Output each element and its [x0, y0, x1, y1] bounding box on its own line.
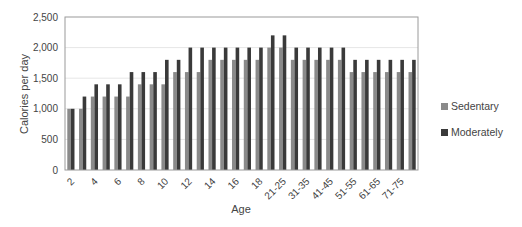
bar-sedentary [91, 97, 95, 170]
bar-sedentary [397, 72, 401, 170]
bar-moderately [330, 48, 334, 170]
bar-sedentary [185, 72, 189, 170]
bar-sedentary [256, 60, 260, 170]
bar-moderately [200, 48, 204, 170]
bar-moderately [377, 60, 381, 170]
bar-sedentary [361, 72, 365, 170]
bar-sedentary [409, 72, 413, 170]
bar-moderately [177, 60, 181, 170]
y-axis-ticks: 05001,0001,5002,0002,500 [33, 12, 58, 176]
bar-moderately [247, 48, 251, 170]
bar-moderately [94, 84, 98, 170]
y-tick-label: 1,500 [33, 73, 58, 84]
bar-sedentary [138, 84, 142, 170]
legend-swatch-moderately [441, 129, 448, 136]
x-tick-label: 51-55 [333, 175, 359, 201]
bar-series [67, 35, 415, 170]
bar-sedentary [173, 72, 177, 170]
bar-moderately [412, 60, 416, 170]
bar-sedentary [303, 60, 307, 170]
x-tick-label: 61-65 [356, 175, 382, 201]
bar-moderately [389, 60, 393, 170]
bar-moderately [83, 97, 87, 170]
bar-sedentary [385, 72, 389, 170]
x-tick-label: 2 [65, 175, 77, 187]
bar-moderately [306, 48, 310, 170]
bar-moderately [130, 72, 134, 170]
y-axis-title: Calories per day [18, 53, 30, 134]
bar-sedentary [232, 60, 236, 170]
bar-sedentary [126, 97, 130, 170]
legend: Sedentary Moderately [441, 100, 504, 138]
legend-label-moderately: Moderately [451, 126, 504, 138]
bar-moderately [153, 72, 157, 170]
bar-sedentary [197, 72, 201, 170]
bar-sedentary [291, 60, 295, 170]
bar-moderately [71, 109, 75, 170]
legend-item-sedentary: Sedentary [441, 100, 500, 112]
bar-moderately [353, 60, 357, 170]
bar-moderately [141, 72, 145, 170]
bar-sedentary [79, 109, 83, 170]
x-tick-label: 12 [178, 175, 194, 191]
bar-moderately [224, 48, 228, 170]
bar-sedentary [208, 60, 212, 170]
x-tick-label: 6 [112, 175, 124, 187]
y-tick-label: 1,000 [33, 103, 58, 114]
bar-moderately [165, 60, 169, 170]
x-tick-label: 14 [202, 175, 218, 191]
bar-moderately [400, 60, 404, 170]
calorie-bar-chart: 05001,0001,5002,0002,500 246810121416182… [0, 0, 522, 227]
bar-moderately [106, 84, 110, 170]
bar-moderately [212, 48, 216, 170]
bar-sedentary [338, 60, 342, 170]
bar-moderately [118, 84, 122, 170]
bar-sedentary [326, 60, 330, 170]
x-tick-label: 71-75 [380, 175, 406, 201]
y-tick-label: 500 [41, 134, 58, 145]
x-tick-label: 16 [225, 175, 241, 191]
y-tick-label: 2,000 [33, 42, 58, 53]
bar-sedentary [350, 72, 354, 170]
legend-label-sedentary: Sedentary [451, 100, 500, 112]
x-tick-label: 4 [88, 175, 100, 187]
bar-moderately [271, 35, 275, 170]
bar-sedentary [279, 48, 283, 170]
bar-sedentary [373, 72, 377, 170]
bar-sedentary [114, 97, 118, 170]
bar-sedentary [314, 60, 318, 170]
bar-sedentary [103, 97, 107, 170]
bar-moderately [283, 35, 287, 170]
bar-sedentary [67, 109, 71, 170]
bar-sedentary [267, 48, 271, 170]
y-tick-label: 2,500 [33, 12, 58, 23]
bar-moderately [342, 48, 346, 170]
legend-item-moderately: Moderately [441, 126, 504, 138]
bar-moderately [294, 48, 298, 170]
bar-moderately [236, 48, 240, 170]
x-tick-label: 18 [249, 175, 265, 191]
x-tick-label: 21-25 [262, 175, 288, 201]
x-tick-label: 8 [135, 175, 147, 187]
x-tick-label: 41-45 [309, 175, 335, 201]
legend-swatch-sedentary [441, 103, 448, 110]
bar-sedentary [220, 60, 224, 170]
y-tick-label: 0 [52, 165, 58, 176]
bar-sedentary [161, 84, 165, 170]
bar-moderately [365, 60, 369, 170]
bar-moderately [318, 48, 322, 170]
x-axis-ticks: 2468101214161821-2531-3541-4551-5561-657… [65, 175, 406, 201]
x-axis-title: Age [231, 203, 251, 215]
x-tick-label: 10 [155, 175, 171, 191]
bar-moderately [259, 48, 263, 170]
x-tick-label: 31-35 [286, 175, 312, 201]
bar-sedentary [150, 84, 154, 170]
bar-moderately [189, 48, 193, 170]
bar-sedentary [244, 60, 248, 170]
